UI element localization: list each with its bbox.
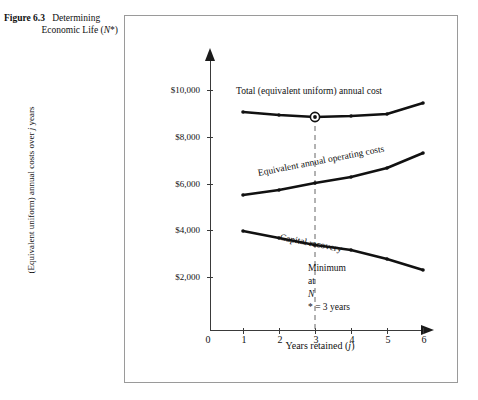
minimum-callout-line-3: N* = 3 years xyxy=(308,288,350,314)
minimum-callout-line-2: at xyxy=(308,275,350,288)
point-oper-3 xyxy=(313,181,317,185)
minimum-callout: Minimum at N* = 3 years xyxy=(308,262,350,314)
minimum-callout-line-1: Minimum xyxy=(308,262,350,275)
point-total-1 xyxy=(241,110,245,114)
point-oper-4 xyxy=(349,175,353,179)
point-oper-5 xyxy=(385,166,389,170)
point-cap-6 xyxy=(421,268,425,272)
chart-plot-area: $10,000 $8,000 $6,000 $4,000 $2,000 0 1 … xyxy=(0,0,478,400)
point-oper-6 xyxy=(421,151,425,155)
point-total-5 xyxy=(385,112,389,116)
point-total-2 xyxy=(277,113,281,117)
curves-svg xyxy=(0,0,478,400)
point-cap-5 xyxy=(385,257,389,261)
point-cap-4 xyxy=(349,248,353,252)
series-total-cost-line xyxy=(243,103,423,117)
point-cap-1 xyxy=(241,229,245,233)
series-label-total-cost: Total (equivalent uniform) annual cost xyxy=(236,86,382,96)
figure-stage: Figure 6.3 Determining Economic Life (N*… xyxy=(0,0,478,400)
point-oper-2 xyxy=(277,188,281,192)
point-total-6 xyxy=(421,101,425,105)
point-oper-1 xyxy=(241,193,245,197)
minimum-marker-dot-icon xyxy=(313,115,317,119)
point-total-4 xyxy=(349,114,353,118)
